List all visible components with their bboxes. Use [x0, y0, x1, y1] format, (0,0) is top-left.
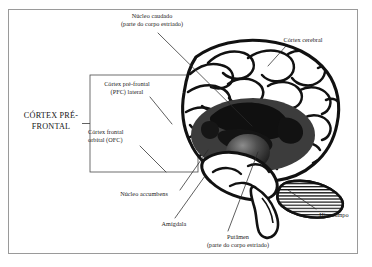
label-nucleo-caudado: Núcleo caudado (parte do corpo estriado) — [92, 12, 212, 27]
label-amigdala: Amígdala — [147, 220, 201, 228]
brain-diagram-figure: CÓRTEX PRÉ-FRONTAL Núcleo caudado (parte… — [0, 0, 372, 267]
label-nucleo-accumbens-line1: Núcleo accumbens — [120, 190, 168, 197]
prefrontal-bracket-line1: CÓRTEX — [24, 111, 57, 120]
label-ofc-line2: orbital (OFC) — [88, 136, 162, 144]
label-cortex-pre-frontal-lateral: Córtex pré-frontal (PFC) lateral — [88, 80, 166, 95]
label-hipocampo: Hipocampo — [305, 211, 363, 219]
label-putamen: Putâmen (parte do corpo estriado) — [178, 233, 298, 248]
label-nucleo-accumbens: Núcleo accumbens — [104, 190, 184, 198]
label-cortex-cerebral: Córtex cerebral — [258, 36, 348, 44]
label-nucleo-caudado-line1: Núcleo caudado — [132, 12, 173, 19]
label-pfc-lateral-line1: Córtex pré-frontal — [104, 80, 150, 87]
label-hipocampo-line1: Hipocampo — [319, 211, 348, 218]
leader-ofc — [140, 146, 166, 172]
label-amigdala-line1: Amígdala — [162, 220, 187, 227]
leader-pfc-lateral — [150, 97, 172, 124]
label-ofc-line1: Córtex frontal — [88, 128, 124, 135]
label-cortex-frontal-orbital: Córtex frontal orbital (OFC) — [88, 128, 162, 143]
label-nucleo-caudado-line2: (parte do corpo estriado) — [92, 20, 212, 28]
label-cortex-cerebral-line1: Córtex cerebral — [283, 36, 322, 43]
prefrontal-bracket-label: CÓRTEX PRÉ-FRONTAL — [14, 110, 88, 132]
label-pfc-lateral-line2: (PFC) lateral — [88, 88, 166, 96]
label-putamen-line2: (parte do corpo estriado) — [178, 241, 298, 249]
label-putamen-line1: Putâmen — [227, 233, 249, 240]
